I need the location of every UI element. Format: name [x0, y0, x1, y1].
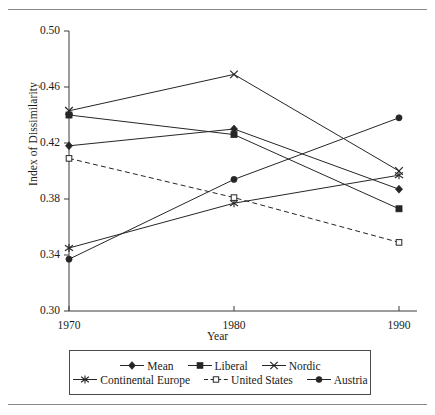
legend-row: Continental EuropeUnited StatesAustria — [72, 373, 367, 386]
x-cross-marker — [230, 71, 238, 79]
legend-item-label: Mean — [147, 360, 173, 372]
legend-item-austria[interactable]: Austria — [306, 373, 368, 386]
legend-item-liberal[interactable]: Liberal — [187, 359, 248, 372]
figure-panel: 0.500.460.420.380.340.30 Index of Dissim… — [0, 0, 435, 415]
legend-item-nordic[interactable]: Nordic — [261, 359, 321, 372]
x-axis-ticks — [69, 306, 399, 311]
circle-filled-marker — [316, 377, 322, 383]
asterisk-icon — [72, 373, 98, 386]
legend-item-label: United States — [231, 374, 293, 386]
x-tick-label: 1980 — [204, 319, 264, 331]
circle-filled-marker — [231, 176, 237, 182]
legend-item-label: Continental Europe — [100, 374, 190, 386]
square-open-icon — [203, 373, 229, 386]
square-filled-marker — [231, 132, 237, 138]
chart-legend: MeanLiberalNordicContinental EuropeUnite… — [69, 350, 371, 395]
diamond-filled-marker — [129, 362, 136, 370]
x-tick-label: 1970 — [39, 319, 99, 331]
square-open-marker — [66, 156, 72, 162]
legend-item-label: Liberal — [215, 360, 248, 372]
circle-filled-marker — [396, 115, 402, 121]
square-open-marker — [213, 377, 218, 382]
circle-filled-marker — [66, 256, 72, 262]
y-axis-ticks — [64, 31, 69, 311]
legend-row: MeanLiberalNordic — [119, 359, 320, 372]
square-open-marker — [231, 195, 237, 201]
legend-item-label: Austria — [334, 374, 368, 386]
square-filled-icon — [187, 359, 213, 372]
x-tick-label: 1990 — [369, 319, 429, 331]
series-continental-europe — [65, 171, 403, 252]
circle-filled-icon — [306, 373, 332, 386]
asterisk-marker — [65, 244, 73, 252]
diamond-filled-icon — [119, 359, 145, 372]
x-cross-icon — [261, 359, 287, 372]
square-open-marker — [396, 240, 402, 246]
diamond-filled-marker — [395, 185, 402, 193]
series-nordic — [65, 71, 403, 175]
square-filled-marker — [396, 206, 402, 212]
square-filled-marker — [197, 363, 203, 369]
series-united-states — [66, 156, 402, 246]
legend-item-continental-europe[interactable]: Continental Europe — [72, 373, 190, 386]
legend-item-label: Nordic — [289, 360, 321, 372]
legend-item-united-states[interactable]: United States — [203, 373, 293, 386]
legend-item-mean[interactable]: Mean — [119, 359, 173, 372]
